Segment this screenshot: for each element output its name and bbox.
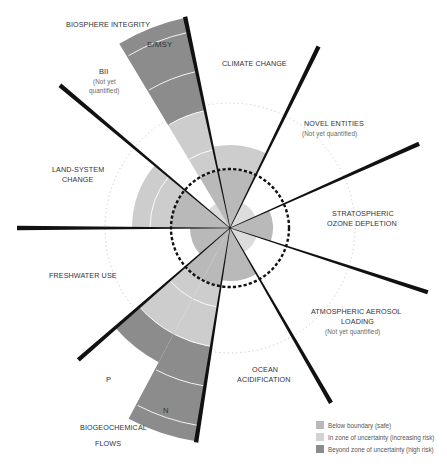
label-aerosol-2: LOADING <box>341 317 374 327</box>
label-aerosol-1: ATMOSPHERIC AEROSOL <box>311 307 401 317</box>
legend-swatch-high-risk <box>316 445 324 453</box>
legend-label-safe: Below boundary (safe) <box>328 422 391 429</box>
label-climate-change: CLIMATE CHANGE <box>222 59 287 69</box>
label-freshwater-use: FRESHWATER USE <box>49 271 117 281</box>
planetary-boundaries-diagram <box>0 0 447 466</box>
label-bii: BII <box>99 67 108 77</box>
label-n: N <box>163 406 169 416</box>
legend-label-high-risk: Beyond zone of uncertainty (high risk) <box>328 446 434 453</box>
legend-item-uncertainty: In zone of uncertainty (increasing risk) <box>316 431 434 443</box>
label-emsy: E/MSY <box>147 40 172 50</box>
sector-line-3 <box>230 228 429 295</box>
label-novel-sub: (Not yet quantified) <box>302 129 357 139</box>
legend-label-uncertainty: In zone of uncertainty (increasing risk) <box>328 434 434 441</box>
label-land-system-1: LAND-SYSTEM <box>52 165 104 175</box>
label-ozone-1: STRATOSPHERIC <box>332 209 394 219</box>
label-biogeochemical-2: FLOWS <box>95 439 121 449</box>
label-biosphere-integrity: BIOSPHERE INTEGRITY <box>66 20 150 30</box>
label-land-system-2: CHANGE <box>62 175 93 185</box>
label-ozone-2: OZONE DEPLETION <box>327 219 397 229</box>
legend-swatch-uncertainty <box>316 433 324 441</box>
legend-swatch-safe <box>316 421 324 429</box>
label-novel-entities: NOVEL ENTITIES <box>304 119 364 129</box>
legend-item-safe: Below boundary (safe) <box>316 419 434 431</box>
label-p: P <box>106 375 111 385</box>
label-ocean-1: OCEAN <box>252 365 278 375</box>
legend-item-high-risk: Beyond zone of uncertainty (high risk) <box>316 443 434 455</box>
label-biogeochemical-1: BIOGEOCHEMICAL <box>80 423 147 433</box>
label-ocean-2: ACIDIFICATION <box>237 375 290 385</box>
wedge-biosphere-integrity-e-msy-high-risk <box>119 18 205 125</box>
label-bii-sub-2: quantified) <box>89 86 120 96</box>
legend: Below boundary (safe) In zone of uncerta… <box>316 419 434 455</box>
label-aerosol-sub: (Not yet quantified) <box>325 327 380 337</box>
